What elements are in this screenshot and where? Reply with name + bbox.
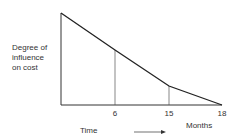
x-tick-15: 15 [165,109,174,118]
x-axis-label: Time [80,126,97,135]
x-tick-18: 18 [218,109,227,118]
time-arrow-icon [161,130,166,134]
x-unit-label: Months [186,121,212,130]
x-tick-6: 6 [113,109,117,118]
y-axis-label: Degree of influence on cost [12,43,47,73]
ylabel-line-1: Degree of [12,43,47,53]
ylabel-line-3: on cost [12,63,47,73]
ylabel-line-2: influence [12,53,47,63]
influence-curve [61,13,222,105]
influence-chart: Degree of influence on cost 6 15 18 Time… [0,0,238,140]
